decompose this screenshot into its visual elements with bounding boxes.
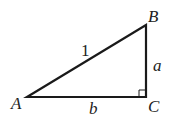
vertex-label-a: A — [10, 94, 22, 113]
vertex-label-c: C — [148, 97, 160, 116]
triangle-diagram: A B C 1 a b — [0, 0, 171, 120]
side-label-a: a — [153, 56, 162, 75]
side-label-b: b — [89, 99, 98, 118]
hypotenuse-label: 1 — [81, 41, 90, 60]
triangle-abc — [27, 25, 146, 97]
vertex-label-b: B — [148, 7, 159, 26]
